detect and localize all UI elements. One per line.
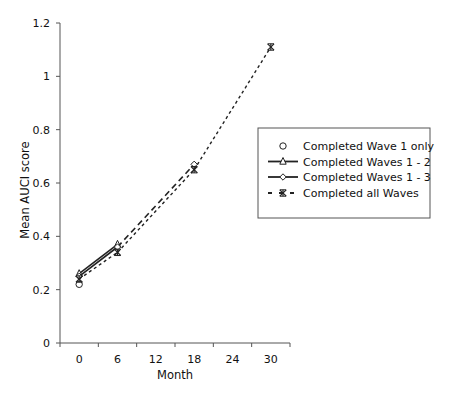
y-axis: 00.20.40.60.811.2 [33, 17, 61, 350]
series-1 [76, 240, 121, 276]
legend-label: Completed Waves 1 - 3 [303, 171, 431, 184]
star-marker [191, 166, 197, 172]
legend-label: Completed Wave 1 only [303, 140, 434, 153]
x-axis: 0612182430 [60, 343, 290, 366]
y-tick-label: 1.2 [33, 17, 51, 30]
x-tick-label: 30 [264, 353, 278, 366]
x-tick-label: 24 [226, 353, 240, 366]
y-tick-label: 0.8 [33, 124, 51, 137]
x-tick-label: 18 [187, 353, 201, 366]
y-tick-label: 0.2 [33, 284, 51, 297]
star-marker [76, 276, 82, 282]
legend-label: Completed all Waves [303, 187, 419, 200]
x-tick-label: 0 [76, 353, 83, 366]
plot-series [76, 44, 274, 288]
series-3 [76, 44, 274, 282]
x-tick-label: 12 [149, 353, 163, 366]
y-axis-title: Mean AUCI score [18, 141, 32, 238]
line-chart: 00.20.40.60.811.2 0612182430 Mean AUCI s… [0, 0, 451, 401]
star-marker [114, 249, 120, 255]
legend-circle-icon [280, 143, 286, 149]
legend: Completed Wave 1 onlyCompleted Waves 1 -… [258, 128, 434, 218]
legend-label: Completed Waves 1 - 2 [303, 156, 431, 169]
star-marker [268, 44, 274, 50]
y-tick-label: 0.4 [33, 230, 51, 243]
y-tick-label: 1 [43, 70, 50, 83]
x-tick-label: 6 [114, 353, 121, 366]
x-axis-title: Month [157, 368, 193, 382]
y-tick-label: 0.6 [33, 177, 51, 190]
y-tick-label: 0 [43, 337, 50, 350]
legend-item: Completed Wave 1 only [280, 140, 435, 153]
